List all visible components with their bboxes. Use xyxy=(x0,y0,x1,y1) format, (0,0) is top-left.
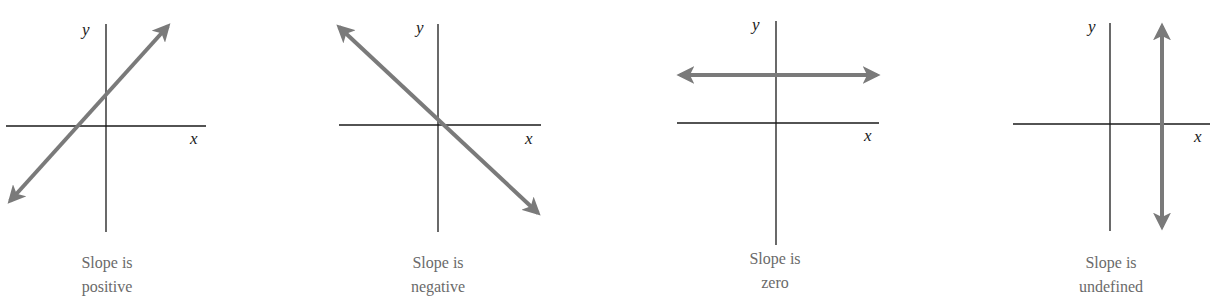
panel-zero-slope: y x Slope is zero xyxy=(677,15,879,291)
positive-slope-line xyxy=(10,26,168,201)
caption-line-1: Slope is xyxy=(1085,254,1136,272)
y-axis-label: y xyxy=(750,15,760,34)
caption-line-1: Slope is xyxy=(749,250,800,268)
caption-line-2: zero xyxy=(761,274,789,291)
y-axis-label: y xyxy=(80,20,90,39)
y-axis-label: y xyxy=(1086,17,1096,36)
panel-negative-slope: y x Slope is negative xyxy=(339,18,541,296)
caption-line-2: undefined xyxy=(1079,278,1143,295)
x-axis-label: x xyxy=(1193,127,1202,146)
caption-line-2: negative xyxy=(411,278,465,296)
x-axis-label: x xyxy=(863,126,872,145)
caption-line-1: Slope is xyxy=(81,254,132,272)
panel-positive-slope: y x Slope is positive xyxy=(6,20,206,296)
caption-line-1: Slope is xyxy=(412,254,463,272)
x-axis-label: x xyxy=(189,129,198,148)
slope-diagram: y x Slope is positive y x Slope is negat… xyxy=(0,0,1211,307)
y-axis-label: y xyxy=(414,18,424,37)
x-axis-label: x xyxy=(524,129,533,148)
panel-undefined-slope: y x Slope is undefined xyxy=(1013,17,1210,295)
caption-line-2: positive xyxy=(82,278,133,296)
